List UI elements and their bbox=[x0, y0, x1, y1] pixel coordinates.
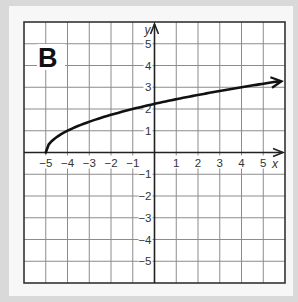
y-tick-label: −5 bbox=[138, 255, 151, 267]
y-tick-label: 3 bbox=[145, 81, 151, 93]
y-tick-label: 5 bbox=[145, 38, 151, 50]
x-tick-label: 1 bbox=[173, 157, 179, 169]
x-tick-label: −4 bbox=[61, 157, 75, 169]
x-tick-label: −5 bbox=[39, 157, 52, 169]
y-tick-label: −1 bbox=[138, 168, 151, 180]
y-tick-label: 4 bbox=[145, 60, 152, 72]
x-axis-label: x bbox=[271, 157, 279, 171]
x-tick-label: 5 bbox=[260, 157, 266, 169]
x-tick-label: −2 bbox=[104, 157, 117, 169]
y-tick-label: 1 bbox=[145, 125, 151, 137]
panel-label: B bbox=[38, 43, 58, 73]
y-tick-label: −2 bbox=[138, 190, 151, 202]
x-tick-label: −3 bbox=[83, 157, 96, 169]
y-axis-label: y bbox=[144, 23, 152, 37]
coordinate-plane: Bxy−5−4−3−2−11234554321−1−2−3−4−5 bbox=[0, 0, 298, 302]
x-tick-label: 3 bbox=[217, 157, 223, 169]
x-tick-label: −1 bbox=[126, 157, 139, 169]
y-tick-label: −3 bbox=[138, 212, 151, 224]
x-tick-label: 2 bbox=[195, 157, 201, 169]
y-tick-label: −4 bbox=[138, 234, 152, 246]
x-tick-label: 4 bbox=[238, 157, 245, 169]
